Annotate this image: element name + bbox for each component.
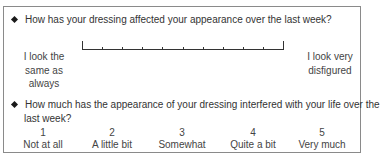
likert-option-1[interactable]: 1 Not at all [8, 127, 78, 151]
scale-tick [102, 47, 103, 50]
scale-tick [183, 47, 184, 50]
option-label: Not at all [8, 139, 78, 151]
scale-tick [263, 47, 264, 50]
scale-tick [142, 47, 143, 50]
anchor-line: disfigured [302, 64, 358, 78]
question-2-text-cont: last week? [24, 112, 71, 125]
option-label: A little bit [77, 139, 147, 151]
scale-right-anchor: I look very disfigured [302, 50, 358, 77]
option-value: 3 [147, 127, 217, 139]
scale-tick [283, 41, 284, 50]
scale-tick [243, 47, 244, 50]
scale-tick [162, 47, 163, 50]
question-1-text: How has your dressing affected your appe… [25, 13, 332, 26]
visual-analogue-scale[interactable] [82, 40, 284, 50]
option-value: 1 [8, 127, 78, 139]
option-value: 4 [218, 127, 288, 139]
scale-tick [203, 47, 204, 50]
anchor-line: always [18, 77, 70, 91]
anchor-line: I look very [302, 50, 358, 64]
option-label: Very much [287, 139, 357, 151]
likert-option-5[interactable]: 5 Very much [287, 127, 357, 151]
option-value: 5 [287, 127, 357, 139]
scale-left-anchor: I look the same as always [18, 50, 70, 91]
scale-tick [122, 47, 123, 50]
likert-option-4[interactable]: 4 Quite a bit [218, 127, 288, 151]
question-2-line1: How much has the appearance of your dres… [25, 99, 380, 110]
option-value: 2 [77, 127, 147, 139]
anchor-line: I look the [18, 50, 70, 64]
scale-tick [82, 41, 83, 50]
option-label: Quite a bit [218, 139, 288, 151]
option-label: Somewhat [147, 139, 217, 151]
likert-option-2[interactable]: 2 A little bit [77, 127, 147, 151]
likert-option-3[interactable]: 3 Somewhat [147, 127, 217, 151]
anchor-line: same as [18, 64, 70, 78]
scale-tick [223, 47, 224, 50]
question-2-text: How much has the appearance of your dres… [25, 98, 380, 111]
